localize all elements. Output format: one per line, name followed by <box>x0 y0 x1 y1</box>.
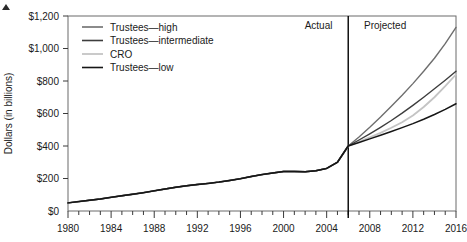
axis-arrow-icon <box>2 4 10 10</box>
series-line <box>68 71 456 203</box>
y-tick-label: $0 <box>48 206 60 217</box>
x-tick-label: 2000 <box>272 223 295 234</box>
series-line <box>68 75 456 203</box>
region-label-projected: Projected <box>364 20 406 31</box>
y-tick-label: $1,200 <box>28 11 59 22</box>
x-tick-label: 1988 <box>143 223 166 234</box>
y-tick-label: $200 <box>37 173 60 184</box>
x-tick-label: 1984 <box>100 223 123 234</box>
y-tick-label: $1,000 <box>28 43 59 54</box>
x-tick-label: 2008 <box>359 223 382 234</box>
x-tick-label: 2016 <box>445 223 467 234</box>
y-tick-label: $600 <box>37 108 60 119</box>
y-axis-title: Dollars (in billions) <box>3 73 14 155</box>
y-tick-label: $800 <box>37 76 60 87</box>
chart-container: Dollars (in billions)$0$200$400$600$800$… <box>0 0 467 242</box>
x-tick-label: 1996 <box>229 223 252 234</box>
y-tick-label: $400 <box>37 141 60 152</box>
series-line <box>68 104 456 203</box>
line-chart: Dollars (in billions)$0$200$400$600$800$… <box>0 0 467 242</box>
x-tick-label: 2004 <box>316 223 339 234</box>
x-tick-label: 2012 <box>402 223 425 234</box>
legend-label: Trustees—low <box>110 62 174 73</box>
region-label-actual: Actual <box>305 20 333 31</box>
legend-label: Trustees—intermediate <box>110 35 214 46</box>
x-tick-label: 1992 <box>186 223 209 234</box>
legend-label: Trustees—high <box>110 22 177 33</box>
legend-label: CRO <box>110 49 132 60</box>
x-tick-label: 1980 <box>57 223 80 234</box>
